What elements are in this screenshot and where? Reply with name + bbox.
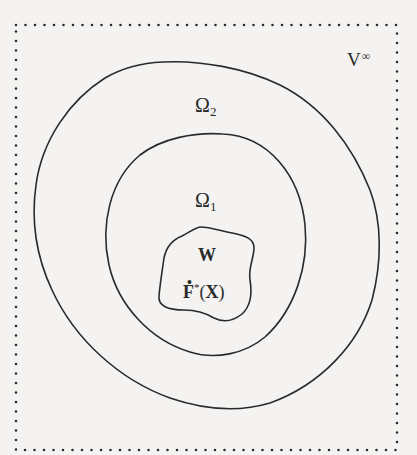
f-letter-with-dot: •F (183, 283, 194, 301)
dot-accent-icon: • (187, 276, 192, 290)
diagram-canvas: V∞ Ω2 Ω1 W •F*(X) (0, 0, 417, 455)
v-infinity-frame (16, 25, 397, 450)
omega1-letter: Ω (195, 189, 210, 211)
omega1-subscript: 1 (210, 199, 217, 214)
close-paren: ) (219, 282, 225, 302)
infinity-superscript: ∞ (362, 49, 371, 63)
omega2-letter: Ω (195, 94, 210, 116)
f-star-x-label: •F*(X) (183, 282, 225, 301)
omega2-label: Ω2 (195, 95, 216, 118)
w-boundary (159, 227, 254, 321)
omega2-subscript: 2 (210, 104, 217, 119)
x-argument: X (206, 282, 219, 302)
v-letter: V (347, 49, 361, 70)
v-infinity-label: V∞ (347, 50, 370, 69)
w-label: W (198, 246, 216, 264)
omega1-label: Ω1 (195, 190, 216, 213)
